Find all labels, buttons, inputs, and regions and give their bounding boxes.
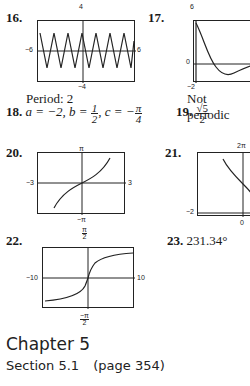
section-heading: Section 5.1 (page 354) [6, 358, 165, 373]
p22-ymax-label: π2 [82, 227, 87, 240]
p21-ymax-label: 2π [237, 142, 246, 149]
p23-answer: 231.34° [187, 233, 228, 248]
problem-18-number: 18. [6, 104, 22, 119]
p22-ymax-den: 2 [82, 233, 87, 240]
graph-22 [42, 247, 134, 308]
p18-a-text: a = −2, b = [26, 104, 91, 119]
p18-c-fraction: π4 [135, 103, 143, 124]
problem-17-number: 17. [148, 10, 164, 26]
graph-21 [197, 152, 250, 216]
p21-xmin-label: −2 [186, 208, 194, 215]
arctan-curve-plot [43, 248, 135, 309]
p22-ymin-label: −π2 [80, 313, 89, 326]
section-label: Section 5.1 [6, 358, 79, 373]
problem-23: 23. 231.34° [167, 233, 227, 249]
p21-xorigin-label: 0 [240, 219, 244, 226]
p18-c-den: 4 [135, 114, 143, 124]
p19-fraction: √52 [196, 103, 210, 124]
p17-ymin-label: −2 [187, 83, 195, 90]
graph-16 [37, 20, 135, 82]
p16-xmin-label: −6 [25, 46, 33, 53]
p22-xmax-label: 10 [137, 274, 145, 281]
p19-den: 2 [196, 114, 210, 124]
chapter-title: Chapter 5 [6, 334, 90, 354]
damped-curve-plot [194, 21, 250, 83]
p16-ymax-label: 4 [79, 3, 83, 10]
problem-16-number: 16. [6, 10, 22, 26]
p20-ymin-label: −π [77, 216, 86, 223]
problem-19: 19. √52 [176, 103, 209, 124]
p22-ymin-den: 2 [80, 319, 89, 326]
graph-17 [193, 20, 250, 82]
problem-19-number: 19. [176, 104, 192, 119]
problem-21-number: 21. [165, 145, 181, 161]
problem-20-number: 20. [6, 145, 22, 161]
p20-ymax-label: π [79, 145, 84, 152]
p17-xmin-label: 0 [186, 58, 190, 65]
graph-20 [37, 152, 125, 214]
p20-xmax-label: 3 [128, 179, 132, 186]
p16-xmax-label: 6 [137, 46, 141, 53]
p17-ymax-label: 6 [190, 3, 194, 10]
problem-18: 18. a = −2, b = 12, c = −π4 [6, 103, 142, 124]
p16-ymin-label: −4 [78, 83, 86, 90]
arcsin-curve-plot [38, 153, 126, 215]
p20-xmin-label: −3 [26, 179, 34, 186]
problem-23-number: 23. [167, 233, 183, 248]
section-page: (page 354) [93, 358, 165, 373]
p22-xmin-label: −10 [26, 274, 38, 281]
arccos-curve-plot [198, 153, 250, 217]
problem-22-number: 22. [6, 233, 22, 249]
p18-c-text: , c = − [98, 104, 134, 119]
sine-curve-plot [38, 21, 136, 83]
